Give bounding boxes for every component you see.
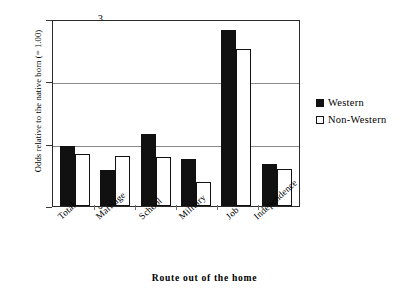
legend-item-non-western: Non-Western (316, 111, 386, 128)
y-tick-mark-0 (46, 207, 52, 208)
legend-label-western: Western (328, 94, 364, 111)
bar-total-non-western (75, 154, 90, 206)
bar-job-western (221, 30, 236, 206)
plot-area (52, 20, 300, 207)
bar-group-school (136, 21, 176, 206)
bar-total-western (60, 146, 75, 206)
bar-group-marriage (95, 21, 135, 206)
x-tick-1 (94, 205, 95, 210)
chart-figure: Odds relative to the native born (= 1.00… (0, 0, 409, 289)
legend-swatch-non-western-icon (316, 116, 324, 124)
x-axis-label: Route out of the home (0, 272, 409, 283)
legend-item-western: Western (316, 94, 386, 111)
x-tick-4 (217, 205, 218, 210)
x-category-label-job: Job (224, 205, 241, 222)
bar-group-total (55, 21, 95, 206)
y-axis-label: Odds relative to the native born (= 1.00… (33, 1, 43, 201)
bar-group-military (176, 21, 216, 206)
bar-group-job (216, 21, 256, 206)
chart-legend: Western Non-Western (316, 94, 386, 128)
bar-school-western (141, 134, 156, 206)
x-tick-2 (135, 205, 136, 210)
legend-label-non-western: Non-Western (328, 111, 386, 128)
bar-job-non-western (236, 49, 251, 206)
legend-swatch-western-icon (316, 99, 324, 107)
x-tick-3 (176, 205, 177, 210)
bar-groups (53, 21, 299, 206)
